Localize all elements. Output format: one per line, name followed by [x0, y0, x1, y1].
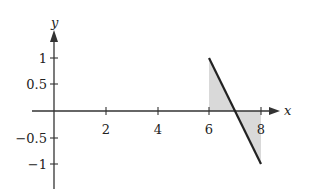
x-tick-label-4: 4	[154, 122, 162, 137]
y-tick-label-1: 1	[39, 51, 47, 66]
y-axis-label: y	[50, 15, 59, 30]
chart-canvas: x y 2 4 6 8 1 0.5 −0.5 −1	[0, 0, 313, 189]
y-tick-label-neg0.5: −0.5	[15, 131, 47, 146]
y-axis-arrow-icon	[50, 30, 58, 42]
y-tick-label-0.5: 0.5	[26, 77, 47, 92]
x-tick-label-2: 2	[102, 122, 110, 137]
x-axis-arrow-icon	[269, 107, 280, 115]
x-tick-label-8: 8	[257, 122, 265, 137]
x-axis-label: x	[284, 103, 292, 118]
x-tick-label-6: 6	[205, 122, 213, 137]
y-tick-label-neg1: −1	[28, 157, 47, 172]
